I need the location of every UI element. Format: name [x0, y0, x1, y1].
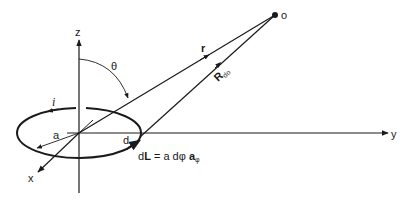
field-point: o — [272, 9, 287, 21]
x-axis-label: x — [28, 172, 34, 184]
dL-element: d dL = a dφ aφ — [123, 134, 200, 164]
radius-label: a — [53, 129, 60, 141]
current-label: i — [52, 95, 55, 109]
theta-label: θ — [111, 60, 117, 72]
z-axis-label: z — [75, 26, 81, 38]
point-marker-icon — [272, 12, 278, 18]
r-vector: r — [79, 15, 275, 133]
r-label: r — [201, 42, 206, 54]
R-label: Rdo — [211, 64, 231, 84]
z-axis: z — [75, 26, 81, 193]
element-label: d — [123, 134, 129, 146]
R-do-vector: Rdo — [140, 15, 275, 137]
y-axis-label: y — [391, 128, 397, 140]
dL-arrow-icon — [128, 143, 136, 148]
dL-equation: dL = a dφ aφ — [138, 150, 200, 164]
theta-angle: θ — [79, 59, 128, 98]
diagram-canvas: z y x i a d dL = a dφ aφ θ — [0, 0, 413, 203]
r-arrow-icon — [200, 56, 207, 60]
point-label: o — [281, 9, 287, 21]
y-axis: y — [67, 128, 397, 140]
